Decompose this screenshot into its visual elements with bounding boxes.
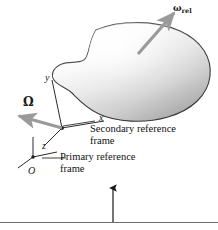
primary-frame-caption-line1: Primary reference [60,151,136,162]
secondary-axis-y [52,80,62,128]
primary-axis-right [33,152,57,157]
figure-canvas: ωrel Ω y x z O Secondary reference frame… [0,0,218,230]
axis-y-label: y [45,72,49,83]
secondary-frame-caption: Secondary reference frame [90,123,176,147]
secondary-frame-caption-line2: frame [90,135,176,147]
omega-label: Ω [23,96,34,109]
primary-frame-caption-line2: frame [60,163,136,175]
primary-frame-caption: Primary reference frame [60,151,136,175]
secondary-axis-z [44,128,62,146]
omega-vector [19,116,62,128]
axis-z-label: z [42,140,46,151]
origin-label: O [28,165,35,176]
axis-x-label: x [99,112,103,123]
primary-frame-origin-dot [31,155,34,158]
omega-rel-label: ωrel [173,3,192,13]
body-highlight [52,23,210,122]
rigid-body [52,23,210,122]
secondary-frame-caption-line1: Secondary reference [90,123,176,134]
figure-vector-graphics [0,0,218,230]
primary-frame-axes [18,137,57,168]
